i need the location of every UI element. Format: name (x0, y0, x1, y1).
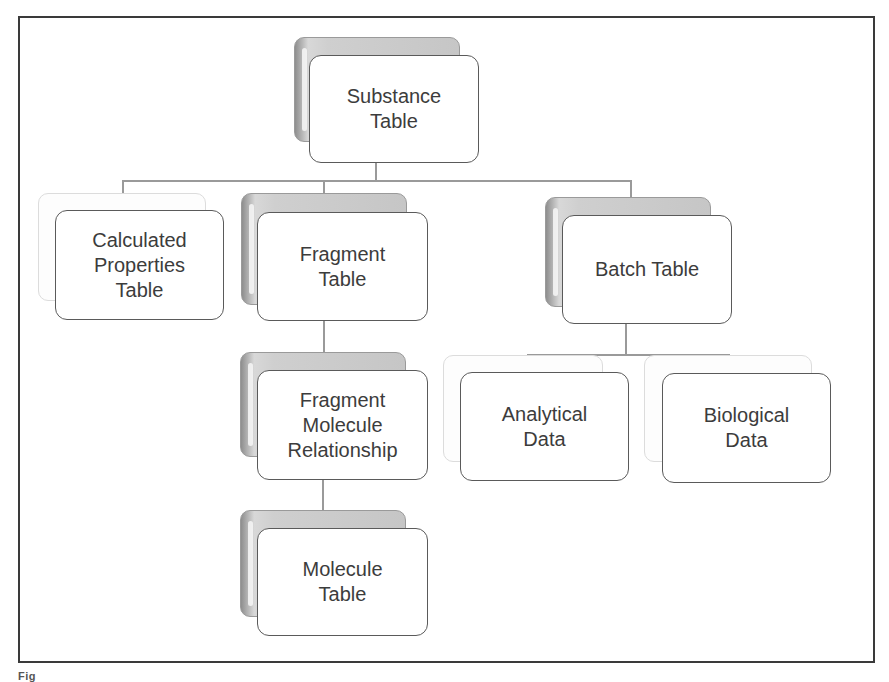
node-batch-table[interactable]: Batch Table (562, 215, 732, 324)
node-substance-table[interactable]: Substance Table (309, 55, 479, 163)
connector-level1-horizontal (122, 180, 632, 182)
connector-batch-down (625, 323, 627, 355)
node-label: Analytical Data (502, 402, 588, 452)
node-label: Batch Table (595, 257, 699, 282)
node-label: Molecule Table (302, 557, 382, 607)
node-fragment-molecule-relationship[interactable]: Fragment Molecule Relationship (257, 370, 428, 480)
node-molecule-table[interactable]: Molecule Table (257, 528, 428, 636)
node-label: Fragment Table (300, 242, 386, 292)
connector-substance-down (375, 163, 377, 181)
node-label: Calculated Properties Table (92, 228, 187, 303)
connector-fmr-to-molecule (322, 480, 324, 512)
node-label: Fragment Molecule Relationship (287, 388, 397, 463)
connector-fragment-to-fmr (323, 320, 325, 354)
node-calculated-properties-table[interactable]: Calculated Properties Table (55, 210, 224, 320)
connector-to-calculated (122, 180, 124, 194)
node-label: Substance Table (347, 84, 442, 134)
node-analytical-data[interactable]: Analytical Data (460, 372, 629, 481)
connector-to-batch (630, 180, 632, 198)
node-biological-data[interactable]: Biological Data (662, 373, 831, 483)
node-label: Biological Data (704, 403, 790, 453)
figure-caption: Fig (18, 670, 36, 682)
connector-to-fragment (323, 180, 325, 194)
node-fragment-table[interactable]: Fragment Table (257, 212, 428, 321)
